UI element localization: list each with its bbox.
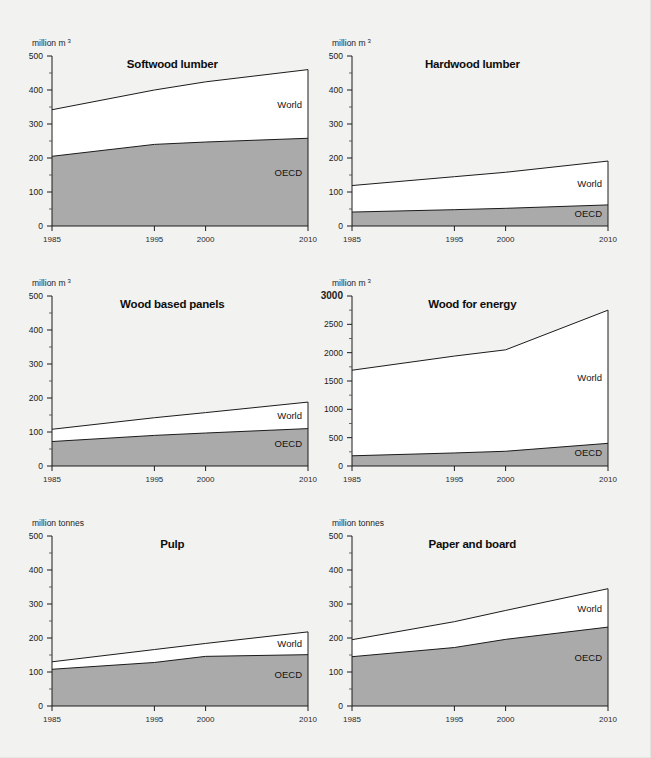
x-tick-label: 2000	[497, 235, 515, 244]
y-tick-label: 400	[29, 565, 43, 575]
y-tick-label: 1500	[324, 376, 343, 386]
y-tick-label: 500	[29, 531, 43, 541]
y-tick-label: 100	[29, 667, 43, 677]
y-tick-label: 500	[329, 51, 343, 61]
series-label-oecd: OECD	[575, 447, 603, 458]
series-label-oecd: OECD	[275, 438, 303, 449]
y-axis-unit-label: million tonnes	[332, 518, 384, 528]
chart-title: Wood based panels	[120, 298, 224, 310]
y-tick-label: 500	[329, 531, 343, 541]
series-label-world: World	[577, 603, 602, 614]
y-tick-label: 500	[29, 291, 43, 301]
y-tick-label: 300	[29, 599, 43, 609]
x-tick-label: 1995	[446, 235, 464, 244]
chart-panel-paper-and-board: million tonnes01002003004005001985199520…	[300, 514, 630, 734]
chart-panel-hardwood-lumber: million m3010020030040050019851995200020…	[300, 34, 630, 254]
series-label-world: World	[277, 638, 302, 649]
x-tick-label: 2010	[599, 235, 617, 244]
y-tick-label: 0	[38, 221, 43, 231]
y-tick-label: 0	[338, 701, 343, 711]
y-tick-label: 400	[329, 85, 343, 95]
x-tick-label: 1985	[43, 235, 61, 244]
chart-grid: million m3010020030040050019851995200020…	[0, 0, 651, 758]
y-axis-unit-label: million m3	[332, 38, 372, 48]
y-tick-label: 300	[29, 359, 43, 369]
chart-panel-softwood-lumber: million m3010020030040050019851995200020…	[0, 34, 330, 254]
series-label-oecd: OECD	[575, 652, 603, 663]
y-tick-label: 200	[29, 153, 43, 163]
y-tick-label: 300	[29, 119, 43, 129]
y-tick-label: 500	[329, 433, 343, 443]
y-tick-label: 200	[329, 633, 343, 643]
series-label-oecd: OECD	[575, 208, 603, 219]
series-label-world: World	[577, 178, 602, 189]
y-tick-label: 200	[29, 633, 43, 643]
x-tick-label: 2010	[599, 475, 617, 484]
y-axis-unit-label: million m3	[332, 278, 372, 288]
y-tick-label: 200	[329, 153, 343, 163]
chart-title: Softwood lumber	[127, 58, 219, 70]
chart-title: Paper and board	[428, 538, 516, 550]
y-tick-label: 100	[329, 187, 343, 197]
y-tick-label: 1000	[324, 404, 343, 414]
chart-title: Pulp	[160, 538, 184, 550]
x-tick-label: 1985	[343, 235, 361, 244]
x-tick-label: 2000	[197, 715, 215, 724]
series-label-oecd: OECD	[275, 669, 303, 680]
y-tick-label: 2500	[324, 319, 343, 329]
x-tick-label: 1985	[43, 715, 61, 724]
x-tick-label: 1985	[343, 715, 361, 724]
y-tick-label: 3000	[321, 290, 344, 301]
y-tick-label: 100	[29, 427, 43, 437]
y-tick-label: 300	[329, 119, 343, 129]
y-tick-label: 0	[38, 701, 43, 711]
y-tick-label: 100	[329, 667, 343, 677]
series-label-world: World	[277, 410, 302, 421]
y-axis-unit-label: million m3	[32, 38, 72, 48]
y-axis-unit-label: million m3	[32, 278, 72, 288]
y-tick-label: 400	[329, 565, 343, 575]
x-tick-label: 1995	[146, 475, 164, 484]
x-tick-label: 1995	[146, 235, 164, 244]
y-tick-label: 2000	[324, 348, 343, 358]
x-tick-label: 2000	[497, 715, 515, 724]
y-tick-label: 300	[329, 599, 343, 609]
x-tick-label: 2000	[497, 475, 515, 484]
y-tick-label: 0	[38, 461, 43, 471]
y-tick-label: 100	[29, 187, 43, 197]
x-tick-label: 1985	[43, 475, 61, 484]
series-label-world: World	[577, 372, 602, 383]
y-tick-label: 400	[29, 85, 43, 95]
chart-title: Wood for energy	[428, 298, 517, 310]
y-tick-label: 0	[338, 461, 343, 471]
x-tick-label: 1995	[146, 715, 164, 724]
series-label-oecd: OECD	[275, 167, 303, 178]
chart-panel-pulp: million tonnes01002003004005001985199520…	[0, 514, 330, 734]
area-world	[352, 310, 608, 466]
y-tick-label: 400	[29, 325, 43, 335]
chart-title: Hardwood lumber	[425, 58, 520, 70]
x-tick-label: 1995	[446, 475, 464, 484]
x-tick-label: 2000	[197, 235, 215, 244]
y-tick-label: 200	[29, 393, 43, 403]
x-tick-label: 2000	[197, 475, 215, 484]
series-label-world: World	[277, 99, 302, 110]
chart-panel-wood-based-panels: million m3010020030040050019851995200020…	[0, 274, 330, 494]
chart-panel-wood-for-energy: million m3050010001500200025003000198519…	[300, 274, 630, 494]
y-axis-unit-label: million tonnes	[32, 518, 84, 528]
y-tick-label: 0	[338, 221, 343, 231]
x-tick-label: 1985	[343, 475, 361, 484]
x-tick-label: 1995	[446, 715, 464, 724]
x-tick-label: 2010	[599, 715, 617, 724]
y-tick-label: 500	[29, 51, 43, 61]
